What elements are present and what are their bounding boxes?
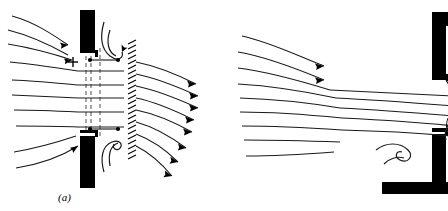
panel-a: (a) [0, 0, 224, 211]
inflow-streamline-5 [12, 80, 78, 85]
jet-streamlines [330, 90, 448, 136]
vortex-upstream-base [376, 144, 410, 164]
wall-upper-segment [80, 10, 95, 52]
panel-a-diagram [0, 0, 224, 211]
jet-streamlines [78, 71, 124, 127]
inflow-streamline-8 [16, 126, 78, 127]
inflow-streamline-7 [14, 110, 78, 112]
inflow-streamline-8 [244, 140, 340, 142]
wall-lower-segment [80, 136, 95, 188]
inflow-streamline-4 [10, 62, 78, 71]
hatched-shear-layer [128, 40, 136, 159]
inflow-streamline-2 [8, 30, 68, 55]
inflow-streamline-4 [238, 84, 336, 98]
lip-tie-lines [90, 60, 118, 129]
outflow-arrowheads [163, 81, 198, 178]
inflow-streamline-6 [240, 112, 342, 118]
panel-b-diagram [224, 0, 448, 211]
inflow-streamline-5 [240, 98, 340, 108]
wall-upper-lip [80, 50, 98, 57]
inflow-arrowheads [315, 63, 324, 84]
vortex-upper [102, 22, 123, 59]
vortex-upper-arrowhead [122, 44, 128, 52]
panel-a-caption: (a) [58, 192, 71, 203]
wall-lower-lip [80, 130, 98, 137]
panel-b: (b) [224, 0, 448, 211]
outflow-streamline-1 [136, 62, 196, 84]
outflow-streamline-8 [136, 146, 172, 176]
upper-arm [432, 12, 448, 26]
vortex-lower [102, 141, 121, 172]
lower-base [382, 182, 448, 194]
inflow-streamline-6 [12, 95, 78, 98]
inflow-streamline-10 [16, 146, 78, 168]
outflow-streamline-3 [136, 86, 198, 108]
inflow-streamline-7 [242, 126, 342, 130]
inflow-streamline-9 [14, 136, 76, 152]
stagnation-point-marker [68, 57, 78, 67]
outflow-streamline-4 [136, 98, 194, 120]
figure-root: (a) [0, 0, 448, 211]
inflow-streamlines [238, 36, 342, 156]
inflow-streamline-1 [242, 36, 324, 66]
lower-post [432, 134, 446, 184]
inflow-streamlines [8, 16, 78, 168]
slotted-vertical-wall [80, 10, 98, 188]
dashed-reference-lines [86, 48, 100, 136]
lip-tie-dots [88, 58, 120, 131]
inflow-streamline-9 [246, 152, 334, 156]
